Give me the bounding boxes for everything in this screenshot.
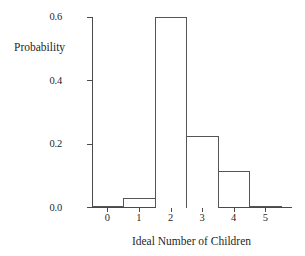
y-tick-mark [87, 144, 92, 145]
y-tick-mark [87, 17, 92, 18]
y-axis-line [92, 17, 93, 208]
x-tick-label: 4 [224, 212, 244, 224]
y-tick-label: 0.4 [38, 76, 62, 87]
y-tick-label: 0.0 [38, 203, 62, 214]
histogram-bar [186, 136, 219, 207]
histogram-bar [218, 171, 251, 208]
probability-histogram-chart: Probability 0.00.20.40.6 012345 Ideal Nu… [0, 0, 305, 256]
histogram-bar [155, 17, 188, 208]
x-axis-title: Ideal Number of Children [0, 234, 305, 248]
x-tick-label: 2 [161, 212, 181, 224]
y-axis-title: Probability [14, 40, 65, 54]
y-tick-label: 0.6 [38, 12, 62, 23]
x-tick-label: 5 [255, 212, 275, 224]
y-tick-label: 0.2 [38, 139, 62, 150]
x-tick-label: 1 [129, 212, 149, 224]
histogram-bar [123, 198, 156, 208]
x-tick-label: 0 [97, 212, 117, 224]
x-tick-label: 3 [192, 212, 212, 224]
y-tick-mark [87, 80, 92, 81]
